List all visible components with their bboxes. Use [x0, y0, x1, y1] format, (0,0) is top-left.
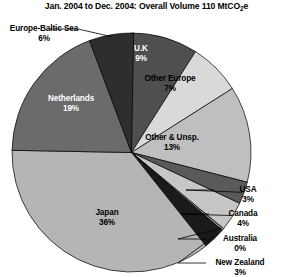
slice-label-percent: 3%	[180, 268, 293, 277]
slice-label: Netherlands19%	[11, 94, 131, 114]
slice-label: Other & Unsp.13%	[112, 133, 232, 153]
slice-label: U.K9%	[81, 44, 201, 64]
slice-label: USA3%	[188, 185, 293, 205]
slice-label: Canada4%	[183, 209, 293, 229]
slice-label-name: Australia	[223, 234, 257, 243]
slice-label-name: Other Europe	[144, 74, 195, 83]
pie-chart-figure: Jan. 2004 to Dec. 2004: Overall Volume 1…	[0, 0, 293, 277]
slice-label-percent: 36%	[47, 218, 167, 228]
slice-label-name: Other & Unsp.	[145, 133, 199, 142]
slice-label: Japan36%	[47, 208, 167, 228]
slice-label: New Zealand3%	[180, 258, 293, 277]
slice-label-percent: 0%	[180, 244, 293, 254]
slice-label-name: Europe-Baltic Sea	[10, 24, 78, 33]
slice-label: Europe-Baltic Sea6%	[0, 24, 104, 44]
slice-label-percent: 19%	[11, 104, 131, 114]
slice-label: Other Europe7%	[110, 74, 230, 94]
slice-label-percent: 9%	[81, 54, 201, 64]
slice-label-percent: 3%	[188, 195, 293, 205]
slice-label-percent: 6%	[0, 34, 104, 44]
slice-label-percent: 4%	[183, 219, 293, 229]
slice-label-name: U.K	[134, 44, 148, 53]
slice-label: Australia0%	[180, 234, 293, 254]
slice-label-name: Canada	[229, 209, 258, 218]
slice-label-name: USA	[240, 185, 257, 194]
slice-label-name: Netherlands	[48, 94, 94, 103]
slice-label-name: Japan	[95, 208, 118, 217]
slice-label-percent: 7%	[110, 84, 230, 94]
slice-label-name: New Zealand	[216, 258, 265, 267]
slice-label-percent: 13%	[112, 143, 232, 153]
